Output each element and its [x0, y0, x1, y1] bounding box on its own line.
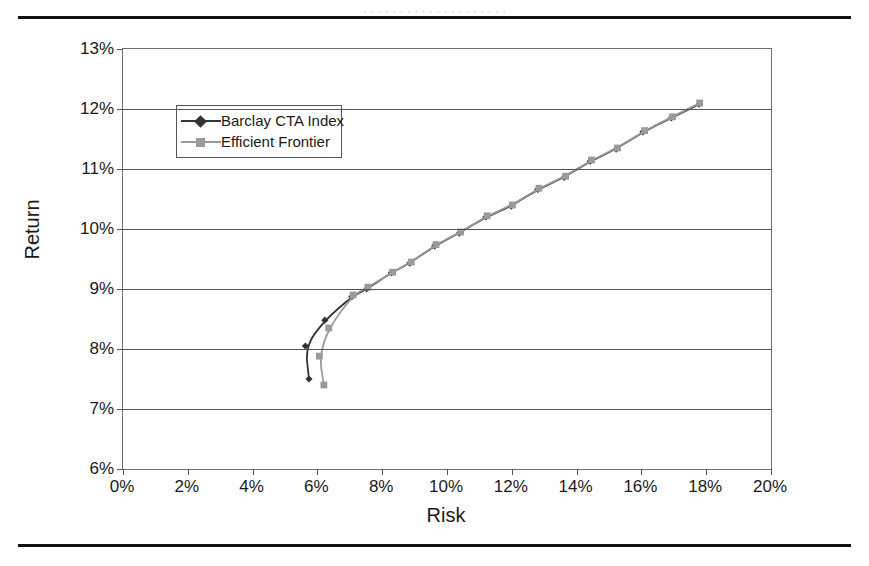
- figure-container: · · · · · · · · · · · · · · · · · · · · …: [0, 0, 869, 566]
- y-tick-mark: [117, 229, 123, 230]
- x-tick-mark: [706, 469, 707, 475]
- data-point-marker: [641, 127, 648, 134]
- y-tick-label: 13%: [62, 40, 114, 57]
- y-tick-label: 6%: [62, 460, 114, 477]
- data-point-marker: [509, 202, 516, 209]
- x-tick-label: 18%: [675, 478, 735, 495]
- x-tick-label: 12%: [481, 478, 541, 495]
- data-point-marker: [316, 353, 323, 360]
- y-tick-mark: [117, 49, 123, 50]
- y-tick-label: 9%: [62, 280, 114, 297]
- figure-caption-sliver: · · · · · · · · · · · · · · · · · · · ·: [18, 0, 851, 13]
- data-point-marker: [669, 113, 676, 120]
- data-point-marker: [433, 241, 440, 248]
- y-tick-mark: [117, 169, 123, 170]
- y-tick-mark: [117, 109, 123, 110]
- legend-entry-efficient-frontier: Efficient Frontier: [177, 131, 341, 152]
- data-point-marker: [325, 325, 332, 332]
- series-line-efficient-frontier: [321, 103, 700, 385]
- y-tick-label: 10%: [62, 220, 114, 237]
- gridline-y: [123, 169, 771, 170]
- gridline-y: [123, 349, 771, 350]
- data-point-marker: [588, 157, 595, 164]
- data-point-marker: [320, 382, 327, 389]
- legend-swatch-square-icon: [181, 135, 221, 149]
- legend-label-efficient-frontier: Efficient Frontier: [221, 134, 330, 149]
- data-point-marker: [305, 375, 312, 382]
- legend-swatch-diamond-icon: [181, 114, 221, 128]
- x-tick-label: 8%: [351, 478, 411, 495]
- gridline-y: [123, 109, 771, 110]
- x-tick-label: 2%: [157, 478, 217, 495]
- x-tick-label: 6%: [286, 478, 346, 495]
- series-line-barclay-cta-index: [307, 104, 699, 379]
- x-tick-mark: [512, 469, 513, 475]
- y-tick-label: 11%: [62, 160, 114, 177]
- y-tick-mark: [117, 409, 123, 410]
- risk-return-chart: Return 6%7%8%9%10%11%12%13% Barclay CTA …: [0, 22, 869, 537]
- plot-area: Barclay CTA Index Efficient Frontier: [122, 48, 772, 470]
- x-tick-label: 0%: [92, 478, 152, 495]
- legend-entry-barclay-cta-index: Barclay CTA Index: [177, 110, 341, 131]
- data-point-marker: [562, 173, 569, 180]
- x-tick-mark: [382, 469, 383, 475]
- x-tick-mark: [317, 469, 318, 475]
- x-tick-label: 20%: [740, 478, 800, 495]
- x-tick-mark: [771, 469, 772, 475]
- y-tick-mark: [117, 349, 123, 350]
- y-tick-label: 12%: [62, 100, 114, 117]
- x-tick-mark: [447, 469, 448, 475]
- legend-label-barclay-cta-index: Barclay CTA Index: [221, 113, 344, 128]
- figure-rule-bottom: [18, 544, 851, 547]
- y-axis-title: Return: [21, 170, 44, 290]
- y-tick-label: 8%: [62, 340, 114, 357]
- data-point-marker: [536, 185, 543, 192]
- x-tick-label: 16%: [610, 478, 670, 495]
- data-point-marker: [484, 212, 491, 219]
- x-tick-label: 10%: [416, 478, 476, 495]
- x-axis-title: Risk: [122, 504, 770, 527]
- data-point-marker: [696, 100, 703, 107]
- gridline-y: [123, 409, 771, 410]
- figure-rule-top: [18, 16, 851, 19]
- x-tick-mark: [641, 469, 642, 475]
- x-tick-mark: [577, 469, 578, 475]
- x-tick-mark: [188, 469, 189, 475]
- data-point-marker: [408, 259, 415, 266]
- x-tick-label: 4%: [222, 478, 282, 495]
- x-tick-label: 14%: [546, 478, 606, 495]
- y-tick-mark: [117, 289, 123, 290]
- data-point-marker: [389, 269, 396, 276]
- x-tick-mark: [123, 469, 124, 475]
- y-axis-tick-labels: 6%7%8%9%10%11%12%13%: [52, 48, 114, 468]
- chart-legend: Barclay CTA Index Efficient Frontier: [176, 105, 342, 158]
- x-tick-mark: [253, 469, 254, 475]
- y-tick-label: 7%: [62, 400, 114, 417]
- x-axis-tick-labels: 0%2%4%6%8%10%12%14%16%18%20%: [122, 478, 770, 500]
- gridline-y: [123, 289, 771, 290]
- data-point-marker: [614, 145, 621, 152]
- data-point-marker: [350, 292, 357, 299]
- gridline-y: [123, 229, 771, 230]
